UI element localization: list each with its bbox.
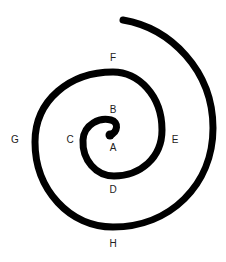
spiral-diagram: A B C D E F G H <box>0 0 226 262</box>
label-a: A <box>110 142 117 153</box>
label-c: C <box>66 134 73 145</box>
label-h: H <box>109 238 116 249</box>
label-d: D <box>109 184 116 195</box>
spiral-path <box>35 20 213 227</box>
label-g: G <box>11 134 19 145</box>
label-b: B <box>110 104 117 115</box>
label-f: F <box>110 52 116 63</box>
label-e: E <box>172 134 179 145</box>
spiral-start-dot <box>106 131 115 140</box>
